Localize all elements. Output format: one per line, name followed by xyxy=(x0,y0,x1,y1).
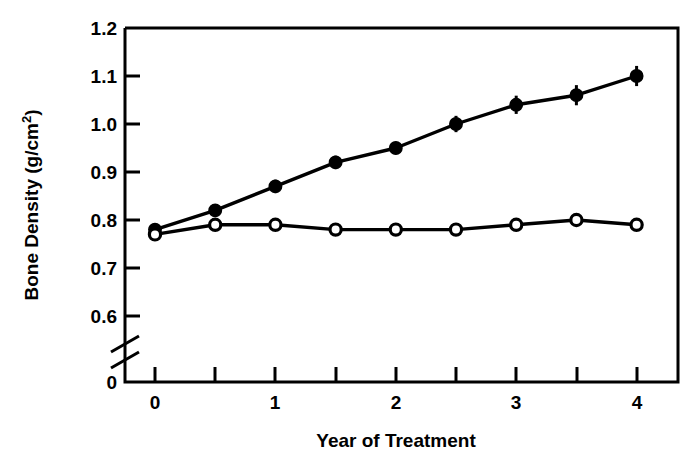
y-tick-label: 1.0 xyxy=(91,114,117,135)
y-tick-label: 0.7 xyxy=(91,258,117,279)
x-tick-label: 4 xyxy=(632,392,643,413)
figure-container: 1.2 1.1 1.0 0.9 0.8 0.7 0.6 0 0 1 2 3 xyxy=(0,0,698,464)
data-point-open xyxy=(390,224,401,235)
y-axis-title-base: Bone Density (g/cm xyxy=(21,123,42,300)
data-point-open xyxy=(330,224,341,235)
y-axis-title-close: ) xyxy=(21,110,42,116)
x-tick-label: 0 xyxy=(150,392,161,413)
data-point-filled xyxy=(570,89,582,101)
data-point-open xyxy=(571,214,582,225)
data-point-filled xyxy=(209,204,221,216)
data-point-open xyxy=(210,219,221,230)
data-point-open xyxy=(631,219,642,230)
x-tick-label: 2 xyxy=(391,392,402,413)
data-point-filled xyxy=(630,70,642,82)
data-point-filled xyxy=(390,142,402,154)
y-tick-label: 1.2 xyxy=(91,18,117,39)
y-tick-label: 1.1 xyxy=(91,66,118,87)
data-point-filled xyxy=(269,180,281,192)
y-tick-label-zero: 0 xyxy=(106,372,117,393)
y-tick-label: 0.6 xyxy=(91,306,117,327)
data-point-filled xyxy=(450,118,462,130)
x-axis-title: Year of Treatment xyxy=(316,430,476,451)
data-point-open xyxy=(149,229,160,240)
data-point-filled xyxy=(510,99,522,111)
bone-density-line-chart: 1.2 1.1 1.0 0.9 0.8 0.7 0.6 0 0 1 2 3 xyxy=(0,0,698,464)
y-tick-label: 0.8 xyxy=(91,210,117,231)
y-axis-title: Bone Density (g/cm2) xyxy=(19,110,42,301)
data-point-open xyxy=(270,219,281,230)
data-point-open xyxy=(450,224,461,235)
x-tick-label: 1 xyxy=(270,392,281,413)
y-tick-label: 0.9 xyxy=(91,162,117,183)
x-tick-label: 3 xyxy=(511,392,522,413)
data-point-filled xyxy=(329,156,341,168)
data-point-open xyxy=(511,219,522,230)
y-axis-title-superscript: 2 xyxy=(19,116,34,123)
